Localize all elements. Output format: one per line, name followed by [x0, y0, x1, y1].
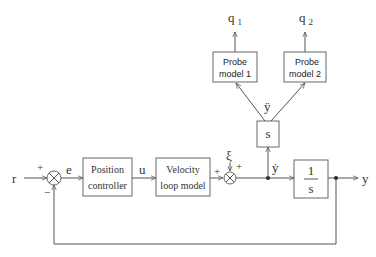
differentiator-block: s: [257, 121, 279, 147]
control-signal-label: u: [139, 162, 146, 177]
probe-model-1-block: Probe model 1: [213, 52, 257, 82]
integrator-denominator: s: [308, 181, 313, 196]
acceleration-signal-label: ÿ: [264, 99, 271, 114]
to-probe2-arrow: [271, 83, 305, 121]
probe2-label-2: model 2: [289, 69, 321, 79]
control-block-diagram: r + − e Position controller u Velocity l…: [0, 0, 376, 257]
position-controller-label-1: Position: [91, 164, 124, 175]
output-signal-label: y: [362, 171, 369, 186]
summing-junction-2: [224, 172, 236, 184]
integrator-numerator: 1: [308, 163, 315, 178]
q2-label: q2: [299, 10, 313, 27]
reference-signal-label: r: [12, 171, 17, 186]
position-controller-label-2: controller: [88, 180, 128, 191]
sum1-plus-sign: +: [37, 161, 43, 173]
probe1-label-1: Probe: [223, 57, 247, 67]
differentiator-label: s: [265, 126, 270, 141]
velocity-loop-label-2: loop model: [160, 180, 205, 191]
position-controller-block: Position controller: [83, 158, 132, 196]
sum1-minus-sign: −: [44, 186, 50, 198]
probe1-label-2: model 1: [219, 69, 251, 79]
sum2-plus-left: +: [214, 165, 220, 177]
probe2-label-1: Probe: [295, 57, 319, 67]
velocity-signal-label: ẏ: [272, 160, 279, 175]
probe-model-2-block: Probe model 2: [284, 52, 326, 82]
q1-label: q1: [228, 10, 242, 27]
summing-junction-1: [47, 171, 61, 185]
sum2-plus-top: +: [236, 160, 242, 172]
to-probe1-arrow: [236, 83, 265, 121]
integrator-block: 1 s: [294, 160, 328, 198]
error-signal-label: e: [66, 162, 72, 177]
velocity-loop-label-1: Velocity: [166, 164, 199, 175]
disturbance-label: ξ: [226, 148, 232, 163]
velocity-loop-block: Velocity loop model: [156, 158, 210, 196]
